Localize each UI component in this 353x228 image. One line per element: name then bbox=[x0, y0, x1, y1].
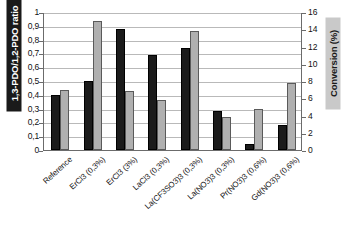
left-tick-label: 1 bbox=[6, 8, 39, 17]
gridline bbox=[44, 27, 301, 28]
gridline bbox=[44, 82, 301, 83]
right-tick-label: 4 bbox=[308, 112, 330, 121]
bar-ratio bbox=[245, 144, 254, 150]
bar-ratio bbox=[84, 81, 93, 150]
left-tick-label: 0,1 bbox=[6, 132, 39, 141]
gridline bbox=[44, 54, 301, 55]
bar-conversion bbox=[190, 31, 199, 150]
bar-ratio bbox=[213, 111, 222, 150]
bar-conversion bbox=[60, 90, 69, 150]
right-tick-mark bbox=[302, 134, 306, 135]
right-tick-label: 2 bbox=[308, 129, 330, 138]
left-tick-label: 0,2 bbox=[6, 118, 39, 127]
bar-conversion bbox=[93, 21, 102, 150]
left-tick-mark bbox=[39, 151, 43, 152]
bar-ratio bbox=[51, 95, 60, 150]
left-tick-label: 0,7 bbox=[6, 49, 39, 58]
right-tick-label: 14 bbox=[308, 25, 330, 34]
right-tick-mark bbox=[302, 30, 306, 31]
right-tick-mark bbox=[302, 13, 306, 14]
left-tick-label: 0 bbox=[6, 146, 39, 155]
right-tick-mark bbox=[302, 65, 306, 66]
bar-conversion bbox=[287, 83, 296, 150]
bar-ratio bbox=[181, 48, 190, 150]
left-tick-label: 0,9 bbox=[6, 22, 39, 31]
bar-conversion bbox=[222, 117, 231, 150]
bar-conversion bbox=[157, 100, 166, 150]
left-tick-label: 0,8 bbox=[6, 36, 39, 45]
right-tick-mark bbox=[302, 117, 306, 118]
right-tick-mark bbox=[302, 151, 306, 152]
right-tick-label: 10 bbox=[308, 60, 330, 69]
gridline bbox=[44, 41, 301, 42]
right-tick-mark bbox=[302, 48, 306, 49]
bar-ratio bbox=[278, 125, 287, 150]
bar-ratio bbox=[116, 29, 125, 150]
left-tick-label: 0,4 bbox=[6, 91, 39, 100]
gridline bbox=[44, 13, 301, 14]
right-tick-label: 16 bbox=[308, 8, 330, 17]
bar-ratio bbox=[148, 55, 157, 150]
chart-container: 1,3-PDO/1,2-PDO ratio Conversion (%) 00,… bbox=[0, 0, 353, 228]
left-tick-label: 0,3 bbox=[6, 105, 39, 114]
right-tick-label: 8 bbox=[308, 77, 330, 86]
right-tick-label: 6 bbox=[308, 94, 330, 103]
left-tick-label: 0,6 bbox=[6, 63, 39, 72]
bar-conversion bbox=[125, 91, 134, 150]
right-tick-mark bbox=[302, 82, 306, 83]
right-tick-mark bbox=[302, 99, 306, 100]
bar-conversion bbox=[254, 109, 263, 150]
gridline bbox=[44, 68, 301, 69]
gridline bbox=[44, 96, 301, 97]
right-tick-label: 12 bbox=[308, 43, 330, 52]
left-tick-label: 0,5 bbox=[6, 77, 39, 86]
right-tick-label: 0 bbox=[308, 146, 330, 155]
plot-area bbox=[43, 13, 302, 151]
